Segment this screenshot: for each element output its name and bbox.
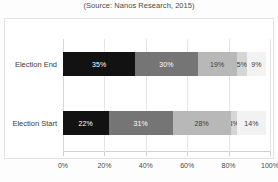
x-tick-label: 60% <box>180 162 194 169</box>
category-label-election-start: Election Start <box>3 119 57 128</box>
bar-segment[interactable]: 28% <box>173 111 231 135</box>
bar-segment[interactable]: 9% <box>247 52 266 76</box>
bar-segment-value-label: 35% <box>92 61 106 68</box>
gridline-100% <box>270 39 271 152</box>
x-tick-mark <box>270 152 271 156</box>
x-tick-label: 100% <box>261 162 278 169</box>
bar-row[interactable]: Election Start22%31%28%3%14% <box>63 111 270 135</box>
chart-plot-frame: 0%20%40%60%80%100%Election End35%30%19%5… <box>4 18 274 159</box>
x-tick-mark <box>104 152 105 156</box>
bar-segment-value-label: 28% <box>195 120 209 127</box>
x-tick-label: 0% <box>58 162 68 169</box>
bar-segment[interactable]: 31% <box>109 111 173 135</box>
bar-segment[interactable]: 5% <box>237 52 247 76</box>
x-tick-mark <box>63 152 64 156</box>
bar-segment[interactable]: 22% <box>63 111 109 135</box>
category-label-election-end: Election End <box>3 60 57 69</box>
x-tick-label: 40% <box>139 162 153 169</box>
bar-segment-value-label: 31% <box>133 120 147 127</box>
bar-segment-value-label: 5% <box>237 61 247 68</box>
bar-segment-value-label: 22% <box>79 120 93 127</box>
x-tick-mark <box>229 152 230 156</box>
x-tick-label: 80% <box>222 162 236 169</box>
bar-segment-value-label: 9% <box>251 61 261 68</box>
stacked-bar-chart-figure: (Source: Nanos Research, 2015) 0%20%40%6… <box>0 0 278 182</box>
bar-segment-value-label: 14% <box>244 120 258 127</box>
bar-row[interactable]: Election End35%30%19%5%9% <box>63 52 270 76</box>
x-tick-label: 20% <box>97 162 111 169</box>
chart-plot-area: 0%20%40%60%80%100%Election End35%30%19%5… <box>63 39 270 152</box>
x-axis-line <box>63 151 270 152</box>
bar-segment-value-label: 19% <box>210 61 224 68</box>
bar-segment[interactable]: 35% <box>63 52 135 76</box>
bar-segment[interactable]: 30% <box>135 52 197 76</box>
bar-segment-value-label: 30% <box>159 61 173 68</box>
x-tick-mark <box>187 152 188 156</box>
bar-segment[interactable]: 19% <box>198 52 237 76</box>
chart-subtitle: (Source: Nanos Research, 2015) <box>0 1 278 10</box>
bar-segment[interactable]: 14% <box>237 111 266 135</box>
x-tick-mark <box>146 152 147 156</box>
